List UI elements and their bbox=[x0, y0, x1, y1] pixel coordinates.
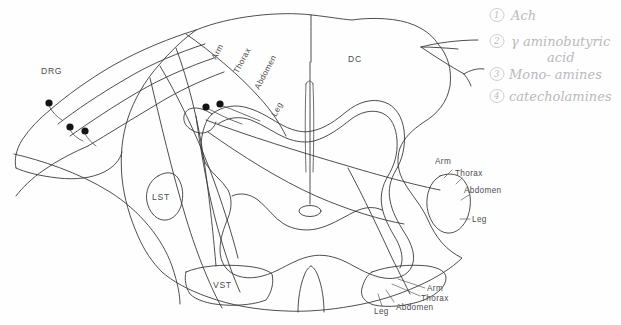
ventral-somatotopy-thorax: Thorax bbox=[421, 294, 449, 303]
posterior-septum-left bbox=[305, 84, 306, 172]
dc-somatotopy-leg: Leg bbox=[270, 101, 285, 118]
legend-label-3: Mono- amines bbox=[508, 67, 602, 82]
central-canal bbox=[299, 206, 321, 217]
lateral-somatotopy-leg: Leg bbox=[472, 215, 487, 224]
fiber-dorsal-column-arm bbox=[186, 34, 286, 136]
rootlet-branch-tip bbox=[464, 69, 484, 74]
dc-somatotopy-abdomen: Abdomen bbox=[253, 54, 279, 91]
anterior-median-fissure-right bbox=[311, 266, 324, 312]
spinal-cord-diagram: LST VST DC DRG Arm Thorax Abdomen Leg Ar… bbox=[0, 0, 621, 325]
legend-label-2: γ aminobutyric bbox=[511, 34, 611, 49]
midline-group bbox=[298, 15, 324, 312]
posterior-septum-cap bbox=[306, 81, 313, 84]
peripheral-fiber-lower-left bbox=[14, 154, 180, 304]
rootlet-branch-upper bbox=[421, 40, 478, 47]
posterior-septum-right bbox=[313, 84, 314, 172]
spinal-cord-figure: LST VST DC DRG Arm Thorax Abdomen Leg Ar… bbox=[0, 0, 621, 325]
lateral-somatotopy-abdomen: Abdomen bbox=[464, 186, 502, 195]
lateral-leader-abdomen bbox=[461, 195, 469, 200]
lateral-somatotopy-arm: Arm bbox=[435, 157, 451, 166]
lst-label: LST bbox=[152, 192, 170, 202]
ventral-leader-arm bbox=[398, 279, 425, 288]
dc-somatotopy-thorax: Thorax bbox=[232, 46, 253, 75]
anterior-median-fissure-left bbox=[298, 266, 311, 312]
drg-contour-upper bbox=[15, 110, 50, 168]
fiber-anterior-commissure bbox=[208, 132, 404, 224]
lateral-nucleus-group: Arm Thorax Abdomen Leg bbox=[427, 157, 502, 233]
gray-matter-outline bbox=[201, 100, 413, 278]
fiber-to-ventral-nucleus bbox=[348, 168, 410, 294]
drg-soma-2 bbox=[66, 123, 73, 130]
lateral-somatotopy-thorax: Thorax bbox=[455, 169, 483, 178]
legend-number-1: 1 bbox=[494, 10, 499, 20]
cord-left-flank-outline bbox=[121, 30, 196, 272]
fiber-crossing-to-right bbox=[206, 120, 440, 190]
drg-soma-3 bbox=[81, 127, 88, 134]
drg-cell-bodies-group bbox=[45, 99, 96, 146]
ventral-somatotopy-leg: Leg bbox=[374, 307, 389, 316]
ventral-nucleus-group: Arm Thorax Abdomen Leg bbox=[362, 265, 449, 316]
lateral-leader-thorax bbox=[456, 178, 462, 184]
rootlet-branch-tip2 bbox=[464, 74, 471, 86]
legend-number-2: 2 bbox=[493, 36, 499, 46]
drg-root-sheath bbox=[16, 152, 122, 179]
legend-number-3: 3 bbox=[494, 69, 499, 79]
legend-label-2b: acid bbox=[547, 50, 575, 65]
fiber-dc-ascending-2 bbox=[176, 48, 216, 266]
lst-group: LST bbox=[146, 173, 182, 220]
legend-number-4: 4 bbox=[493, 91, 499, 101]
rootlet-branch-lower bbox=[421, 47, 464, 74]
ventral-somatotopy-arm: Arm bbox=[427, 284, 443, 293]
dc-somatotopy-arm: Arm bbox=[210, 43, 225, 61]
gray-matter-group bbox=[184, 100, 414, 278]
rootlet-stem bbox=[421, 47, 458, 49]
dorsal-horn-soma-2 bbox=[216, 100, 223, 107]
drg-soma-1 bbox=[45, 99, 52, 106]
fiber-dc-ascending-1 bbox=[160, 66, 238, 258]
drg-contour-lower bbox=[16, 146, 88, 196]
dorsal-horn-soma-1 bbox=[202, 103, 209, 110]
nerve-root-fiber-1 bbox=[50, 30, 196, 110]
legend-label-1: Ach bbox=[510, 8, 536, 23]
neurotransmitter-legend: 1 Ach 2 γ aminobutyric acid 3 Mono- amin… bbox=[490, 8, 612, 104]
vst-label: VST bbox=[213, 280, 232, 290]
lateral-nucleus-outline bbox=[427, 174, 471, 233]
tract-fibers-group bbox=[150, 34, 440, 308]
legend-label-4: catecholamines bbox=[509, 89, 612, 104]
drg-soma-1-stalk bbox=[49, 106, 62, 120]
dc-label: DC bbox=[348, 54, 362, 64]
dorsal-rootlets-group bbox=[421, 40, 484, 86]
drg-label: DRG bbox=[41, 66, 62, 76]
ventral-somatotopy-abdomen: Abdomen bbox=[396, 303, 434, 312]
anterior-horn-contour bbox=[232, 194, 382, 230]
